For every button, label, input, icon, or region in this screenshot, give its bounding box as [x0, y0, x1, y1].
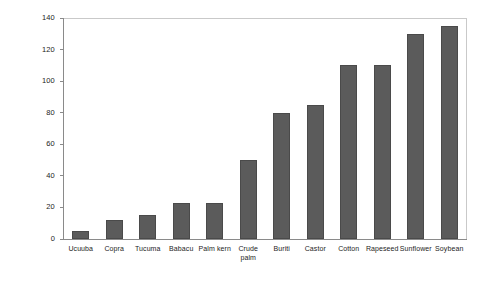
y-axis-tick-mark: [60, 144, 63, 145]
x-axis-labels: UcuubaCopraTucumaBabacuPalm kernCrude pa…: [64, 244, 466, 276]
bar: [106, 220, 123, 239]
y-axis-tick-label: 140: [0, 13, 62, 23]
bar-chart: Iodine Index 020406080100120140 UcuubaCo…: [0, 0, 485, 282]
bar: [441, 26, 458, 239]
bar-slot: [366, 19, 400, 239]
x-axis-tick-label: Copra: [98, 244, 132, 276]
x-axis-line: [63, 239, 467, 240]
bar: [340, 65, 357, 239]
bar: [407, 34, 424, 239]
x-axis-tick-label: Ucuuba: [64, 244, 98, 276]
x-axis-tick-label: Buriti: [265, 244, 299, 276]
bar: [72, 231, 89, 239]
y-axis-tick-mark: [60, 207, 63, 208]
bar-slot: [399, 19, 433, 239]
y-axis-tick-mark: [60, 18, 63, 19]
y-axis-tick-label: 100: [0, 76, 62, 86]
y-axis-tick-label: 0: [0, 234, 62, 244]
x-axis-tick-label: Babacu: [165, 244, 199, 276]
y-axis-tick-label: 80: [0, 108, 62, 118]
x-axis-tick-label: Soybean: [433, 244, 467, 276]
bar-slot: [64, 19, 98, 239]
bar: [173, 203, 190, 239]
y-axis-tick-label: 60: [0, 139, 62, 149]
x-axis-tick-label: Castor: [299, 244, 333, 276]
y-axis-tick-mark: [60, 175, 63, 176]
y-axis-tick-mark: [60, 239, 63, 240]
y-axis-tick-label: 120: [0, 45, 62, 55]
bar: [273, 113, 290, 239]
bars-container: [64, 19, 466, 239]
y-axis-tick-label: 40: [0, 171, 62, 181]
x-axis-tick-label: Palm kern: [198, 244, 232, 276]
bar-slot: [98, 19, 132, 239]
bar-slot: [265, 19, 299, 239]
y-axis-tick-label: 20: [0, 202, 62, 212]
bar-slot: [332, 19, 366, 239]
bar-slot: [433, 19, 467, 239]
bar-slot: [131, 19, 165, 239]
bar: [240, 160, 257, 239]
x-axis-tick-label: Sunflower: [399, 244, 433, 276]
y-axis-tick-mark: [60, 112, 63, 113]
bar: [206, 203, 223, 239]
x-axis-tick-label: Cotton: [332, 244, 366, 276]
x-axis-tick-label: Tucuma: [131, 244, 165, 276]
bar-slot: [232, 19, 266, 239]
y-axis-tick-mark: [60, 81, 63, 82]
bar: [307, 105, 324, 239]
bar-slot: [299, 19, 333, 239]
x-axis-tick-label: Crude palm: [232, 244, 266, 276]
bar-slot: [165, 19, 199, 239]
bar-slot: [198, 19, 232, 239]
y-axis-tick-mark: [60, 49, 63, 50]
x-axis-tick-label: Rapeseed: [366, 244, 400, 276]
bar: [374, 65, 391, 239]
bar: [139, 215, 156, 239]
